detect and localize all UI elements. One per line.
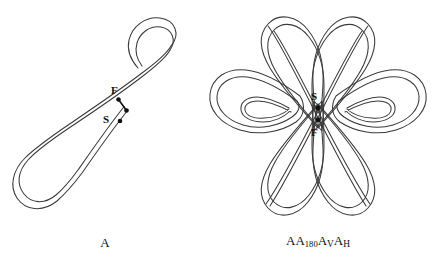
- caption-part-2: A: [318, 233, 327, 248]
- caption-sub-3: H: [343, 239, 350, 249]
- marker-label-f-a: F: [111, 85, 118, 96]
- panel-diagram-a: F S A: [0, 0, 210, 259]
- panel-a-caption: A: [0, 236, 210, 249]
- panel-b-caption: AA180AVAH: [196, 234, 440, 247]
- caption-part-3: A: [334, 233, 343, 248]
- finish-dot-a: [116, 97, 121, 102]
- tick-dot-a: [124, 108, 129, 113]
- panel-diagram-b: S F AA180AVAH: [196, 0, 440, 259]
- caption-sub-2: V: [327, 239, 334, 249]
- marker-label-s-b: S: [311, 91, 317, 102]
- finish-dot-b: [316, 118, 321, 123]
- figure-root: F S A: [0, 0, 440, 259]
- caption-sub-1: 180: [305, 239, 318, 249]
- endpoint-markers-b: [196, 0, 440, 232]
- caption-part-1: AA: [286, 233, 305, 248]
- marker-label-s-a: S: [103, 114, 109, 125]
- marker-label-f-b: F: [311, 127, 318, 138]
- start-dot-b: [316, 106, 321, 111]
- start-dot-a: [118, 119, 123, 124]
